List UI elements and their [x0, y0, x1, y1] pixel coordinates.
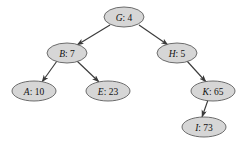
edges-layer: [42, 25, 208, 117]
tree-edge-b-e: [77, 61, 99, 82]
node-label-h: H: 5: [168, 49, 186, 59]
tree-node-a[interactable]: A: 10: [12, 81, 56, 101]
node-label-e: E: 23: [97, 87, 119, 97]
nodes-layer: G: 4B: 7H: 5A: 10E: 23K: 65I: 73: [12, 7, 235, 137]
tree-edge-h-k: [187, 61, 206, 82]
tree-edge-g-b: [77, 25, 110, 45]
tree-node-e[interactable]: E: 23: [86, 81, 130, 101]
node-label-k: K: 65: [202, 87, 224, 97]
node-label-i: I: 73: [194, 123, 213, 133]
tree-edge-k-i: [202, 100, 208, 117]
tree-canvas: G: 4B: 7H: 5A: 10E: 23K: 65I: 73: [0, 0, 244, 143]
node-label-b: B: 7: [59, 49, 75, 59]
tree-edge-g-h: [139, 25, 168, 45]
node-label-a: A: 10: [23, 87, 45, 97]
node-label-g: G: 4: [116, 13, 133, 23]
tree-node-b[interactable]: B: 7: [47, 43, 87, 63]
binary-tree-diagram: G: 4B: 7H: 5A: 10E: 23K: 65I: 73: [0, 0, 244, 143]
tree-node-k[interactable]: K: 65: [191, 81, 235, 101]
tree-node-h[interactable]: H: 5: [157, 43, 197, 63]
tree-edge-b-a: [42, 61, 57, 82]
tree-node-i[interactable]: I: 73: [182, 117, 226, 137]
tree-node-g[interactable]: G: 4: [104, 7, 144, 27]
